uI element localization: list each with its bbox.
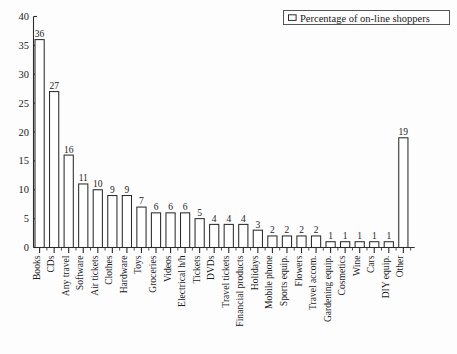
bar-series [35,40,408,248]
category-label-travel-tickets: Travel tickets [220,255,231,307]
y-tick-label: 20 [19,127,30,138]
bar-value-software: 11 [79,173,88,183]
bar-cosmetics [341,242,350,248]
bar-value-tickets: 5 [197,208,202,218]
bar-value-videos: 6 [168,202,173,212]
bar-hardware [122,196,131,248]
bar-travel-accom [311,236,320,248]
bar-value-gardening-equip: 1 [328,231,333,241]
bar-toys [137,207,146,247]
y-tick-label: 30 [19,69,30,80]
category-tick-labels: BooksCDsAny travelSoftwareAir ticketsClo… [31,255,406,327]
bar-videos [166,213,175,248]
category-label-toys: Toys [132,255,143,274]
y-tick-label: 35 [19,40,30,51]
bar-sports-equip [282,236,291,248]
category-label-diy-equip: DIY equip. [380,256,391,299]
bar-value-toys: 7 [139,196,144,206]
bar-value-diy-equip: 1 [386,231,391,241]
bar-value-dvds: 4 [212,214,217,224]
chart-canvas: 0510152025303540 36271611109976665444322… [0,0,457,354]
bar-value-hardware: 9 [125,185,130,195]
bar-value-electrical-h-h: 6 [183,202,188,212]
bar-value-mobile-phone: 2 [270,225,275,235]
bar-value-other: 19 [399,127,409,137]
category-label-air-tickets: Air tickets [89,255,100,295]
bar-tickets [195,219,204,248]
bar-travel-tickets [224,224,233,247]
y-tick-label: 0 [24,242,29,253]
bar-wine [355,242,364,248]
category-label-other: Other [394,255,405,278]
category-label-cosmetics: Cosmetics [336,255,347,295]
bar-value-any-travel: 16 [64,145,74,155]
bar-value-groceries: 6 [154,202,159,212]
category-label-dvds: DVDs [205,255,216,280]
bar-cds [50,92,59,248]
bar-chart-figure: 0510152025303540 36271611109976665444322… [0,0,457,354]
bar-air-tickets [93,190,102,248]
bar-cars [370,242,379,248]
category-label-wine: Wine [351,256,362,276]
bar-electrical-h-h [181,213,190,248]
category-label-any-travel: Any travel [60,255,71,296]
bar-diy-equip [384,242,393,248]
category-label-holidays: Holidays [249,255,260,290]
y-tick-label: 25 [19,98,30,109]
bar-value-travel-accom: 2 [314,225,319,235]
category-label-cds: CDs [45,255,56,272]
bar-value-cosmetics: 1 [343,231,348,241]
bar-gardening-equip [326,242,335,248]
category-label-mobile-phone: Mobile phone [263,256,274,310]
empty-square-icon [289,15,297,21]
bar-value-holidays: 3 [255,220,260,230]
bar-value-air-tickets: 10 [93,179,103,189]
bar-value-labels: 36271611109976665444322221111119 [35,29,409,241]
bar-value-cars: 1 [372,231,377,241]
legend: Percentage of on-line shoppers [284,11,450,25]
bar-mobile-phone [268,236,277,248]
y-tick-label: 10 [19,184,30,195]
bar-clothes [108,196,117,248]
category-label-electrical-h-h: Electrical h/h [176,255,187,307]
x-axis [34,248,415,254]
bar-flowers [297,236,306,248]
category-label-videos: Videos [162,255,173,282]
y-axis: 0510152025303540 [19,11,38,253]
category-label-books: Books [31,255,42,280]
category-label-software: Software [74,256,85,291]
bar-groceries [151,213,160,248]
bar-other [399,138,408,248]
bar-value-flowers: 2 [299,225,304,235]
bar-financial-products [239,224,248,247]
category-label-travel-accom: Travel accom. [307,256,318,311]
bar-value-books: 36 [35,29,45,39]
category-label-gardening-equip: Gardening equip. [322,256,333,323]
category-label-tickets: Tickets [191,255,202,283]
bar-value-financial-products: 4 [241,214,246,224]
category-label-groceries: Groceries [147,255,158,293]
category-label-clothes: Clothes [103,255,114,285]
bar-value-wine: 1 [357,231,362,241]
y-tick-label: 5 [24,213,29,224]
bar-value-cds: 27 [49,81,59,91]
bar-value-travel-tickets: 4 [226,214,231,224]
bar-dvds [210,224,219,247]
bar-books [35,40,44,248]
category-label-sports-equip: Sports equip. [278,256,289,307]
category-label-financial-products: Financial products [234,255,245,326]
bar-any-travel [64,155,73,247]
bar-value-clothes: 9 [110,185,115,195]
bar-software [79,184,88,248]
legend-label: Percentage of on-line shoppers [300,13,430,24]
category-label-cars: Cars [365,255,376,273]
bar-value-sports-equip: 2 [285,225,290,235]
bar-holidays [253,230,262,247]
y-tick-label: 40 [19,11,30,22]
y-tick-label: 15 [19,155,30,166]
category-label-hardware: Hardware [118,256,129,294]
category-label-flowers: Flowers [293,255,304,286]
